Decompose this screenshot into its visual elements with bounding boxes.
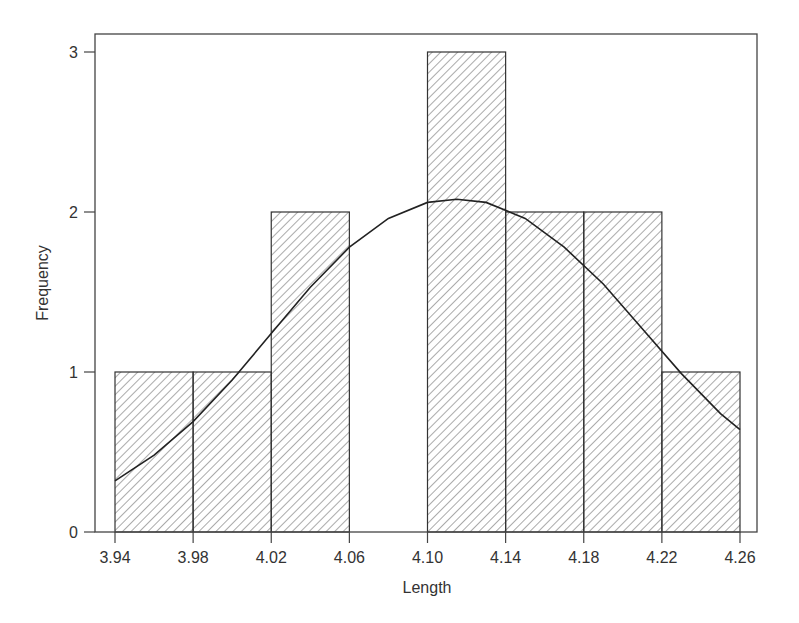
y-axis: 0123 [69, 44, 95, 541]
x-tick-label: 3.94 [99, 549, 130, 566]
y-tick-label: 3 [69, 44, 78, 61]
histogram-bar [193, 372, 271, 532]
histogram-bars [115, 52, 740, 532]
histogram-bar [115, 372, 193, 532]
y-tick-label: 1 [69, 364, 78, 381]
x-tick-label: 4.02 [256, 549, 287, 566]
x-tick-label: 3.98 [178, 549, 209, 566]
x-axis-label: Length [403, 579, 452, 596]
histogram-bar [584, 212, 662, 532]
x-axis: 3.943.984.024.064.104.144.184.224.26 [99, 532, 755, 566]
histogram-bar [506, 212, 584, 532]
histogram-bar [662, 372, 740, 532]
histogram-chart: 0123 3.943.984.024.064.104.144.184.224.2… [0, 0, 799, 623]
x-tick-label: 4.10 [412, 549, 443, 566]
histogram-bar [428, 52, 506, 532]
y-tick-label: 2 [69, 204, 78, 221]
x-tick-label: 4.18 [568, 549, 599, 566]
x-tick-label: 4.14 [490, 549, 521, 566]
x-tick-label: 4.06 [334, 549, 365, 566]
y-tick-label: 0 [69, 524, 78, 541]
y-axis-label: Frequency [34, 245, 51, 321]
x-tick-label: 4.22 [646, 549, 677, 566]
x-tick-label: 4.26 [724, 549, 755, 566]
